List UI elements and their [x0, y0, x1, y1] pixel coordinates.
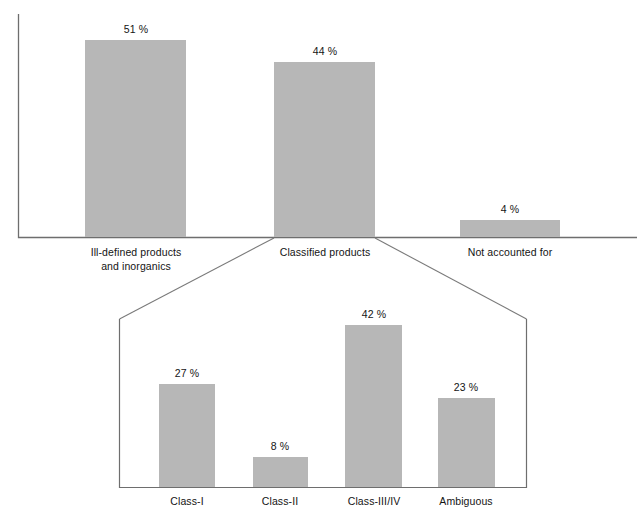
- bottom-chart-category-label-class-iii-iv-line1: Class-III/IV: [348, 494, 401, 508]
- top-chart-bar-classified: [274, 62, 375, 237]
- top-chart-category-label-not-accounted: Not accounted for: [468, 245, 553, 259]
- bottom-chart-category-label-class-iii-iv: Class-III/IV: [348, 494, 401, 508]
- bottom-chart-category-label-class-i: Class-I: [170, 494, 203, 508]
- top-chart-category-label-ill-defined: Ill-defined products and inorganics: [91, 245, 182, 273]
- top-chart-category-label-ill-defined-line1: Ill-defined products: [91, 245, 182, 259]
- chart-figure: 51 % 44 % 4 % Ill-defined products and i…: [0, 0, 640, 512]
- top-chart-category-label-not-accounted-line1: Not accounted for: [468, 245, 553, 259]
- bottom-chart-value-label-class-iii-iv: 42 %: [362, 308, 386, 320]
- top-chart-bar-not-accounted: [460, 220, 560, 237]
- bottom-chart-value-label-ambiguous: 23 %: [454, 381, 478, 393]
- bottom-chart-category-label-ambiguous-line1: Ambiguous: [439, 494, 492, 508]
- bottom-chart-category-label-ambiguous: Ambiguous: [439, 494, 492, 508]
- bottom-chart-bar-class-ii: [253, 457, 308, 487]
- bottom-chart-bar-class-iii-iv: [345, 325, 402, 487]
- top-chart-category-label-classified-line1: Classified products: [280, 245, 371, 259]
- top-chart-value-label-ill-defined: 51 %: [124, 23, 148, 35]
- bottom-chart-category-label-class-ii: Class-II: [262, 494, 298, 508]
- bottom-chart-category-label-class-i-line1: Class-I: [170, 494, 203, 508]
- bottom-chart-bar-ambiguous: [438, 398, 495, 487]
- bottom-chart-bar-class-i: [159, 384, 215, 487]
- bottom-chart-value-label-class-i: 27 %: [175, 367, 199, 379]
- top-chart-category-label-classified: Classified products: [280, 245, 371, 259]
- top-chart-value-label-not-accounted: 4 %: [501, 203, 519, 215]
- bottom-chart-category-label-class-ii-line1: Class-II: [262, 494, 298, 508]
- bottom-chart-group: [159, 325, 495, 487]
- top-chart-bar-ill-defined: [85, 40, 186, 237]
- bottom-chart-value-label-class-ii: 8 %: [271, 440, 289, 452]
- top-chart-category-label-ill-defined-line2: and inorganics: [91, 259, 182, 273]
- top-chart-value-label-classified: 44 %: [313, 45, 337, 57]
